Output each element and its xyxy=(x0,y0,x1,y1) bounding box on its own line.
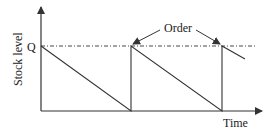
order-label: Order xyxy=(164,21,192,35)
y-axis-label: Stock level xyxy=(11,32,25,86)
q-label: Q xyxy=(27,40,36,54)
time-label: Time xyxy=(223,116,248,130)
order-arrow-2 xyxy=(196,30,220,44)
stock-level-line xyxy=(41,46,245,111)
order-arrow-1 xyxy=(133,30,160,44)
inventory-diagram: Order Time Q Stock level xyxy=(0,0,278,134)
